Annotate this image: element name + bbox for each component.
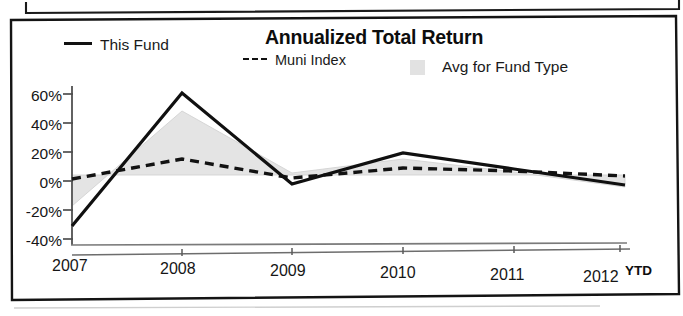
x-axis-rule <box>72 249 630 255</box>
chart: Annualized Total Return This Fund Muni I… <box>0 0 683 316</box>
plot-canvas <box>0 0 683 316</box>
x-axis-baseline <box>71 243 627 245</box>
scanned-page: Annualized Total Return This Fund Muni I… <box>0 0 683 316</box>
